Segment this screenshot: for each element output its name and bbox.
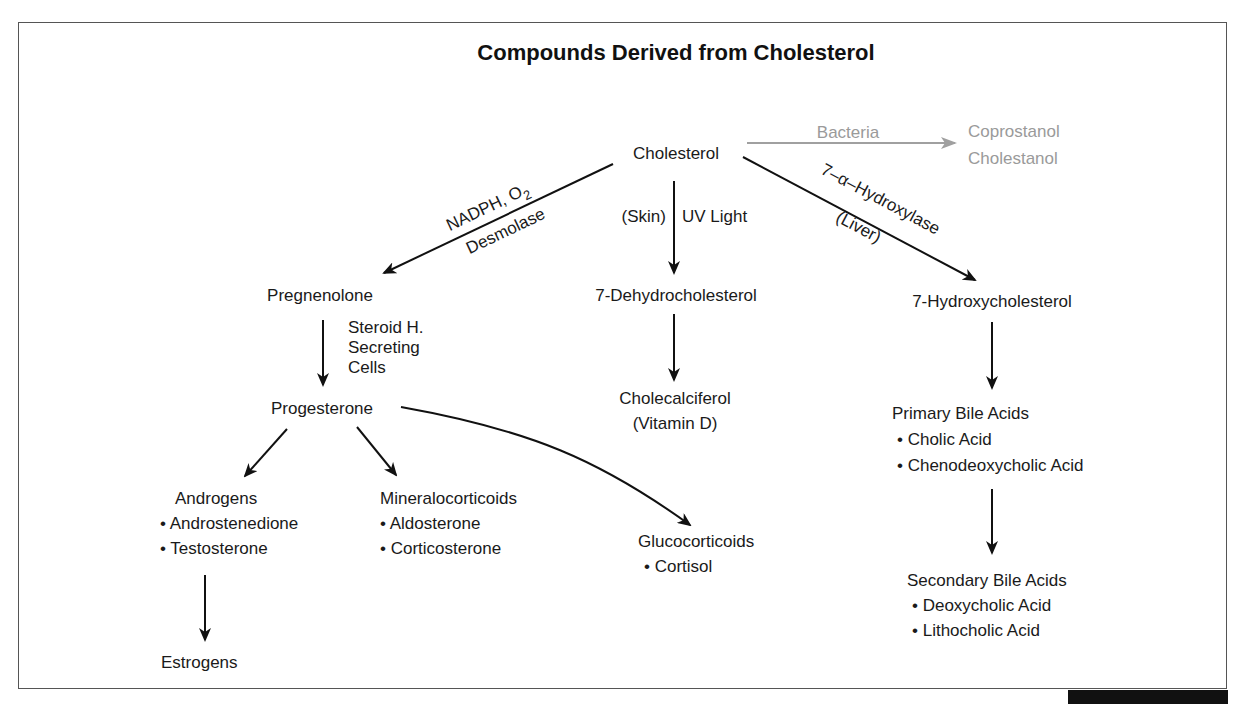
mineralocorticoids-item: • Aldosterone (380, 514, 480, 533)
node-cholestanol: Cholestanol (968, 149, 1058, 168)
node-pregnenolone: Pregnenolone (267, 286, 373, 305)
node-coprostanol: Coprostanol (968, 122, 1060, 141)
mineralocorticoids-item: • Corticosterone (380, 539, 501, 558)
label-steroid-1: Steroid H. (348, 318, 424, 337)
secondary-bile-acids-item: • Lithocholic Acid (912, 621, 1040, 640)
primary-bile-acids-item: • Cholic Acid (897, 430, 992, 449)
label-hydroxylase: 7–α–Hydroxylase (818, 160, 943, 239)
node-mineralocorticoids: Mineralocorticoids (380, 489, 517, 508)
label-steroid-2: Secreting (348, 338, 420, 357)
primary-bile-acids-item: • Chenodeoxycholic Acid (897, 456, 1083, 475)
diagram-title: Compounds Derived from Cholesterol (477, 40, 874, 65)
node-secondary-bile-acids: Secondary Bile Acids (907, 571, 1067, 590)
arrow-to-androgens (245, 429, 287, 476)
node-cholesterol: Cholesterol (633, 144, 719, 163)
node-progesterone: Progesterone (271, 399, 373, 418)
label-uv-light: UV Light (682, 207, 747, 226)
node-estrogens: Estrogens (161, 653, 238, 672)
node-7-hydroxycholesterol: 7-Hydroxycholesterol (912, 292, 1072, 311)
node-vitamin-d: (Vitamin D) (633, 414, 718, 433)
label-skin: (Skin) (622, 207, 666, 226)
label-steroid-3: Cells (348, 358, 386, 377)
arrow-to-pregnenolone (384, 164, 613, 273)
arrow-to-mineralocorticoids (357, 427, 396, 475)
androgens-item: • Androstenedione (160, 514, 298, 533)
androgens-item: • Testosterone (160, 539, 268, 558)
node-androgens: Androgens (175, 489, 257, 508)
pathway-diagram: Compounds Derived from Cholesterol Chole… (0, 0, 1242, 704)
node-primary-bile-acids: Primary Bile Acids (892, 404, 1029, 423)
node-7-dehydrocholesterol: 7-Dehydrocholesterol (595, 286, 757, 305)
node-glucocorticoids: Glucocorticoids (638, 532, 754, 551)
node-cholecalciferol: Cholecalciferol (619, 389, 731, 408)
secondary-bile-acids-item: • Deoxycholic Acid (912, 596, 1051, 615)
glucocorticoids-item: • Cortisol (644, 557, 712, 576)
label-liver: (Liver) (833, 207, 884, 246)
label-bacteria: Bacteria (817, 123, 880, 142)
